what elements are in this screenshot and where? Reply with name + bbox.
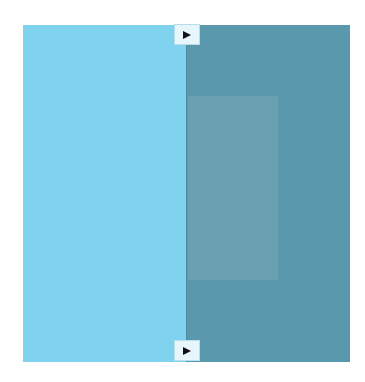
slider-handle-top[interactable] xyxy=(174,24,200,45)
slider-divider[interactable] xyxy=(186,25,187,362)
play-right-icon xyxy=(182,30,192,40)
slider-handle-bottom[interactable] xyxy=(174,340,200,361)
before-image-pane xyxy=(23,25,187,362)
after-image-inner-region xyxy=(188,96,278,280)
play-right-icon xyxy=(182,346,192,356)
image-comparison-slider[interactable] xyxy=(23,25,350,362)
after-image-pane xyxy=(187,25,350,362)
